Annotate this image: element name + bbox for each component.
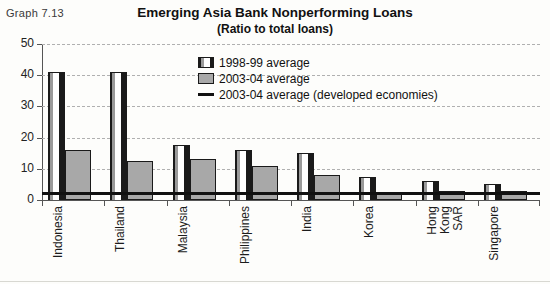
y-axis-tick-label: 40 [4, 67, 34, 81]
line-swatch-icon [198, 89, 214, 100]
chart-root: Graph 7.13 Emerging Asia Bank Nonperform… [0, 0, 550, 284]
chart-legend: 1998-99 average 2003-04 average 2003-04 … [198, 55, 438, 103]
legend-item-developed: 2003-04 average (developed economies) [198, 87, 438, 102]
y-axis-tick [37, 106, 42, 107]
chart-subtitle: (Ratio to total loans) [0, 21, 550, 37]
y-axis-labels: 01020304050 [0, 44, 34, 200]
gray-bar-swatch-icon [198, 73, 214, 84]
y-axis-tick-label: 50 [4, 36, 34, 50]
x-axis-category-label: Philippines [239, 206, 252, 264]
x-axis-tick [291, 200, 292, 206]
bar-1998-99 [359, 177, 376, 200]
x-axis-tick [539, 200, 540, 206]
y-axis-tick-label: 10 [4, 161, 34, 175]
legend-label-developed: 2003-04 average (developed economies) [219, 88, 438, 102]
bar-2003-04 [314, 175, 340, 200]
bar-1998-99 [110, 72, 127, 200]
x-axis-category-label: Singapore [488, 206, 501, 261]
x-axis-tick [42, 200, 43, 206]
x-axis-tick [353, 200, 354, 206]
chart-title-block: Emerging Asia Bank Nonperforming Loans (… [0, 5, 550, 37]
x-axis-category-label: Kong [439, 206, 452, 234]
x-axis-category-label: India [301, 206, 314, 232]
developed-economies-reference-line [42, 192, 540, 195]
x-axis-category-label: Malaysia [177, 206, 190, 253]
y-axis-tick [37, 75, 42, 76]
y-axis-tick-label: 0 [4, 192, 34, 206]
x-axis-tick [167, 200, 168, 206]
bar-1998-99 [422, 181, 439, 200]
legend-item-2003-04: 2003-04 average [198, 71, 438, 86]
bottom-divider [0, 281, 550, 282]
striped-bar-swatch-icon [198, 57, 214, 68]
y-axis-tick [37, 44, 42, 45]
y-axis-tick [37, 169, 42, 170]
legend-item-1998-99: 1998-99 average [198, 55, 438, 70]
x-axis-tick [104, 200, 105, 206]
y-axis-line [42, 44, 43, 200]
y-axis-tick [37, 138, 42, 139]
x-axis-tick [478, 200, 479, 206]
x-axis-category-label: SAR [452, 206, 465, 231]
x-axis-category-label: Thailand [114, 206, 127, 252]
y-axis-tick-label: 30 [4, 98, 34, 112]
legend-label-1998-99: 1998-99 average [219, 56, 310, 70]
x-axis-tick [229, 200, 230, 206]
chart-title: Emerging Asia Bank Nonperforming Loans [0, 5, 550, 21]
x-axis-tick [416, 200, 417, 206]
x-axis-category-label: Indonesia [52, 206, 65, 258]
x-axis-category-label: Hong [426, 206, 439, 235]
gridline [42, 44, 540, 45]
x-axis-category-label: Korea [363, 206, 376, 238]
bar-1998-99 [48, 72, 65, 200]
legend-label-2003-04: 2003-04 average [219, 72, 310, 86]
y-axis-tick-label: 20 [4, 130, 34, 144]
